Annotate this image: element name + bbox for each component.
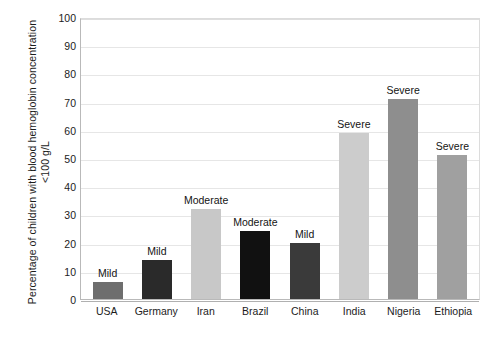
bar-chart: Percentage of children with blood hemogl… bbox=[0, 0, 496, 351]
bar[interactable] bbox=[290, 243, 320, 299]
bars-group: MildMildModerateModerateMildSevereSevere… bbox=[81, 19, 479, 299]
bar-value-label: Moderate bbox=[233, 217, 277, 228]
bar-value-label: Mild bbox=[295, 229, 314, 240]
y-axis-tick-label: 70 bbox=[46, 97, 76, 108]
y-axis-tick-label: 50 bbox=[46, 154, 76, 165]
x-axis-tick-label: Germany bbox=[132, 304, 182, 324]
x-axis-tick-label: Brazil bbox=[231, 304, 281, 324]
x-axis-tick-label: Nigeria bbox=[379, 304, 429, 324]
bar[interactable] bbox=[93, 282, 123, 299]
bar-value-label: Mild bbox=[98, 268, 117, 279]
x-axis-tick-label: Iran bbox=[181, 304, 231, 324]
y-axis-tick-label: 10 bbox=[46, 266, 76, 277]
bar[interactable] bbox=[240, 231, 270, 299]
bar-value-label: Severe bbox=[337, 119, 370, 130]
bar-slot: Mild bbox=[280, 19, 329, 299]
bar-value-label: Severe bbox=[386, 85, 419, 96]
y-axis-tick-label: 20 bbox=[46, 238, 76, 249]
bar[interactable] bbox=[191, 209, 221, 299]
y-axis-tick-label: 30 bbox=[46, 210, 76, 221]
plot-area: MildMildModerateModerateMildSevereSevere… bbox=[80, 18, 480, 300]
y-axis-tick-label: 0 bbox=[46, 295, 76, 306]
bar-slot: Severe bbox=[428, 19, 477, 299]
bar-slot: Moderate bbox=[182, 19, 231, 299]
y-axis-tick-label: 90 bbox=[46, 41, 76, 52]
y-axis-tick-label: 80 bbox=[46, 69, 76, 80]
bar-slot: Severe bbox=[379, 19, 428, 299]
bar-value-label: Mild bbox=[147, 246, 166, 257]
bar[interactable] bbox=[142, 260, 172, 299]
bar[interactable] bbox=[388, 99, 418, 299]
bar-value-label: Moderate bbox=[184, 195, 228, 206]
y-axis-tick-label: 40 bbox=[46, 182, 76, 193]
x-axis-tick-labels: USAGermanyIranBrazilChinaIndiaNigeriaEth… bbox=[80, 304, 480, 324]
bar-value-label: Severe bbox=[436, 141, 469, 152]
y-axis-tick-labels: 1009080706050403020100 bbox=[46, 18, 76, 300]
bar[interactable] bbox=[437, 155, 467, 299]
bar[interactable] bbox=[339, 133, 369, 299]
x-axis-tick-label: India bbox=[330, 304, 380, 324]
bar-slot: Severe bbox=[329, 19, 378, 299]
bar-slot: Mild bbox=[83, 19, 132, 299]
gridline bbox=[81, 301, 479, 302]
bar-slot: Mild bbox=[132, 19, 181, 299]
y-axis-tick-label: 60 bbox=[46, 125, 76, 136]
bar-slot: Moderate bbox=[231, 19, 280, 299]
x-axis-tick-label: China bbox=[280, 304, 330, 324]
y-axis-tick-label: 100 bbox=[46, 13, 76, 24]
x-axis-tick-label: Ethiopia bbox=[429, 304, 479, 324]
x-axis-tick-label: USA bbox=[82, 304, 132, 324]
